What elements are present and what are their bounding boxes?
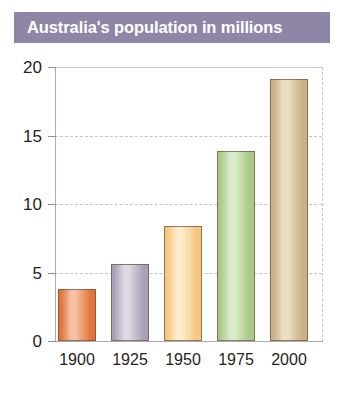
y-tick-mark-5 [48,273,56,274]
bar-1975[interactable] [217,151,255,341]
plot-right-edge [322,67,323,342]
bar-2000[interactable] [270,79,308,341]
y-tick-label-5: 5 [2,265,42,282]
x-tick-label-2000: 2000 [260,352,318,368]
y-tick-mark-20 [48,67,56,68]
bar-1925[interactable] [111,264,149,341]
y-tick-mark-15 [48,136,56,137]
y-tick-label-20: 20 [2,59,42,76]
gridline-20 [55,67,322,68]
chart-title-banner: Australia's population in millions [14,12,330,43]
y-tick-label-15: 15 [2,128,42,145]
x-tick-label-1950: 1950 [154,352,212,368]
y-tick-mark-0 [48,341,56,342]
y-tick-label-0: 0 [2,333,42,350]
x-tick-label-1900: 1900 [48,352,106,368]
chart-title: Australia's population in millions [27,19,282,36]
y-tick-mark-10 [48,204,56,205]
x-tick-label-1975: 1975 [207,352,265,368]
y-tick-label-10: 10 [2,196,42,213]
bar-1900[interactable] [58,289,96,341]
bar-1950[interactable] [164,226,202,341]
x-axis-line [55,341,323,342]
x-tick-label-1925: 1925 [101,352,159,368]
chart-figure: Australia's population in millions 20 15… [0,0,344,393]
